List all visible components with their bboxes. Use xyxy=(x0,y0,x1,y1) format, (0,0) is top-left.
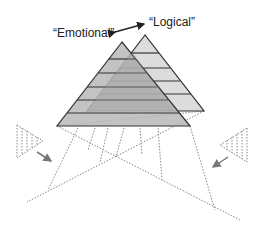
double-arrow-icon xyxy=(115,24,144,32)
left-arrow-icon xyxy=(37,152,51,161)
projection-lines xyxy=(27,111,240,220)
emotional-label: “Emotional” xyxy=(53,26,114,40)
pyramid-diagram: “Emotional” “Logical” xyxy=(0,0,259,230)
right-small-triangle xyxy=(220,128,247,162)
right-arrow-icon xyxy=(213,157,228,167)
logical-label: “Logical” xyxy=(149,15,195,29)
